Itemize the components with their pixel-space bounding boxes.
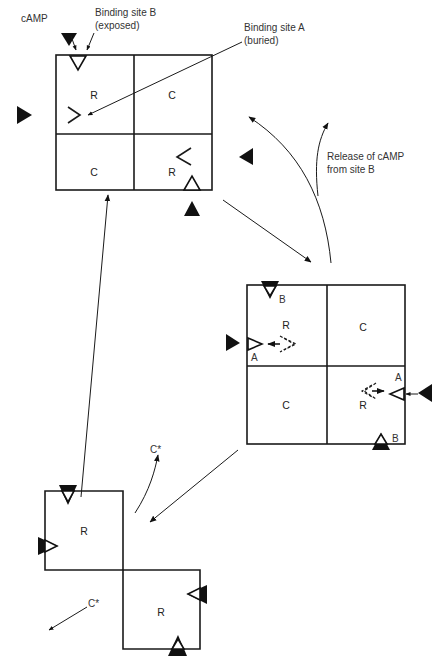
state2-site-label-b-top: B: [279, 294, 286, 305]
binding-site-b-icon: [184, 176, 200, 190]
released-c-label-top: C*: [150, 444, 161, 455]
state2-site-label-b-bottom: B: [392, 433, 399, 444]
state2-subunit-c-top: C: [359, 321, 367, 333]
camp-molecule-icon: [226, 334, 240, 351]
site-b-label-line1: Binding site B: [95, 7, 156, 18]
released-c-label-bottom: C*: [88, 598, 99, 609]
state2-subunit-r-bottom: R: [359, 399, 367, 411]
binding-site-a-icon: [390, 388, 404, 400]
binding-site-a-icon: [45, 540, 57, 552]
site-a-pointer-line: [88, 42, 242, 115]
state2-site-label-a-right: A: [395, 372, 402, 383]
release-label-line2: from site B: [327, 164, 375, 175]
state2-outline: [247, 285, 405, 444]
state2-site-label-a-left: A: [251, 352, 258, 363]
arrow-state3-to-state1: [81, 195, 108, 497]
binding-site-b-icon: [62, 491, 74, 502]
state1-subunit-r-bottom: R: [168, 166, 176, 178]
state3-subunit-r-bottom: R: [157, 606, 165, 618]
site-b-pointer-line: [87, 33, 94, 50]
release-label-line1: Release of cAMP: [327, 151, 405, 162]
camp-molecule-icon: [184, 201, 200, 216]
regulatory-dimer-state-3: R R: [38, 485, 207, 656]
arrow-release-c-subunit-2: [49, 607, 87, 630]
arrow-state2-to-state3: [150, 450, 238, 522]
camp-molecule-icon: [61, 33, 77, 46]
state2-subunit-c-bottom: C: [282, 399, 290, 411]
binding-site-a-icon: [68, 107, 80, 123]
binding-site-a-icon: [177, 148, 191, 165]
state1-subunit-r-top: R: [90, 89, 98, 101]
binding-site-b-icon: [375, 434, 387, 444]
state2-subunit-r-top: R: [282, 319, 290, 331]
binding-site-b-icon: [70, 56, 86, 70]
pka-activation-diagram: R C C R cAMP Binding site B (exposed) Bi…: [0, 0, 447, 665]
buried-site-outline-icon: [280, 336, 294, 352]
camp-molecule-icon: [17, 106, 32, 124]
binding-site-a-icon: [248, 338, 262, 350]
arrow-release-c-subunit: [135, 455, 158, 513]
holoenzyme-state-2: R C C R B A A B: [226, 281, 432, 450]
camp-label: cAMP: [21, 13, 48, 24]
camp-molecule-icon: [418, 384, 432, 402]
binding-site-a-icon: [188, 588, 200, 600]
arrow-release-curve-1: [249, 117, 331, 263]
state3-subunit-r-top: R: [80, 525, 88, 537]
binding-site-b-icon: [264, 286, 276, 296]
holoenzyme-state-1: R C C R: [17, 33, 253, 216]
site-a-label-line1: Binding site A: [244, 22, 305, 33]
state1-subunit-c-bottom: C: [90, 166, 98, 178]
camp-molecule-icon: [239, 148, 253, 165]
arrow-state1-to-state2: [223, 200, 311, 262]
state1-subunit-c-top: C: [168, 89, 176, 101]
site-b-label-line2: (exposed): [95, 20, 139, 31]
site-a-label-line2: (buried): [244, 35, 278, 46]
